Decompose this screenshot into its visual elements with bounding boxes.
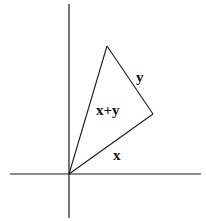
label-x-plus-y: x+y [96, 102, 120, 118]
vector-x [69, 114, 153, 174]
label-x: x [113, 147, 121, 163]
vector-diagram: x y x+y [0, 0, 206, 221]
label-y: y [136, 69, 144, 85]
